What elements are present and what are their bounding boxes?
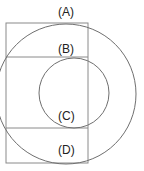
annulus-diagram: (A) (B) (C) (D) (0, 0, 144, 171)
label-d: (D) (58, 144, 75, 156)
label-a: (A) (58, 6, 74, 18)
label-b: (B) (58, 43, 74, 55)
label-c: (C) (58, 110, 75, 122)
